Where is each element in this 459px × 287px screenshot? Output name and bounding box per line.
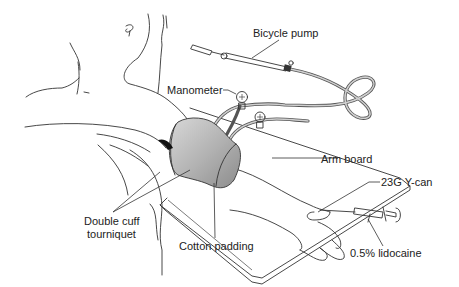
- cannula-syringe: [320, 207, 401, 222]
- manometer-2: [255, 112, 265, 128]
- label-bicycle-pump: Bicycle pump: [253, 27, 318, 39]
- double-cuff-tourniquet-graphic: [158, 118, 240, 188]
- label-manometer: Manometer: [167, 84, 223, 96]
- label-cannula: 23G Y-can: [381, 176, 432, 188]
- tubing: [213, 69, 374, 143]
- label-lidocaine: 0.5% lidocaine: [350, 247, 422, 259]
- label-double-cuff-line2: tourniquet: [87, 228, 136, 240]
- bicycle-pump: [191, 45, 293, 72]
- label-arm-board: Arm board: [321, 153, 372, 165]
- label-double-cuff-line1: Double cuff: [84, 215, 139, 227]
- leader-lines: [113, 40, 383, 246]
- label-cotton-padding: Cotton padding: [179, 240, 254, 252]
